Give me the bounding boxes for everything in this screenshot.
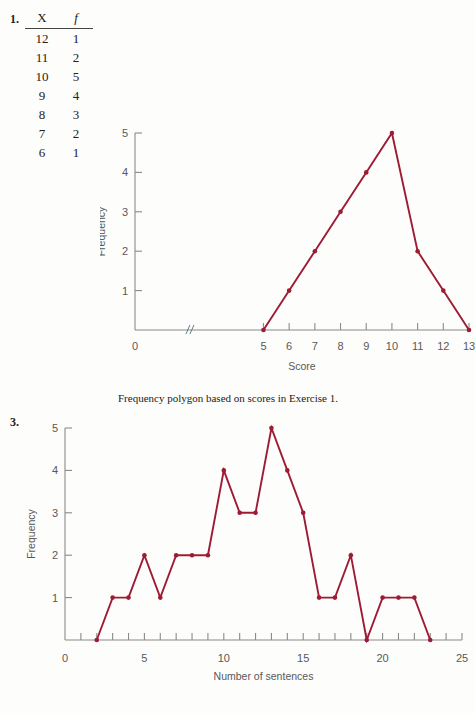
x-tick-label: 25 — [456, 652, 468, 664]
x-tick-label: 9 — [363, 340, 369, 352]
data-point-marker — [285, 468, 290, 473]
x-axis-title: Score — [288, 360, 316, 372]
cell-x: 6 — [25, 143, 59, 162]
y-tick-label: 5 — [122, 127, 128, 139]
data-point-marker — [317, 595, 322, 600]
cell-f: 1 — [59, 29, 93, 49]
x-tick-label: 15 — [297, 652, 309, 664]
data-point-marker — [396, 595, 401, 600]
data-point-marker — [412, 595, 417, 600]
x-tick-label: 10 — [218, 652, 230, 664]
data-point-marker — [313, 249, 318, 254]
cell-x: 11 — [25, 48, 59, 67]
series-line — [97, 428, 430, 640]
data-point-marker — [222, 468, 227, 473]
x-tick-label: 0 — [62, 652, 68, 664]
data-point-marker — [237, 511, 242, 516]
exercise-3-number: 3. — [10, 415, 19, 430]
table-body: 12 1 11 2 10 5 9 4 8 3 — [25, 29, 93, 163]
data-point-marker — [94, 638, 99, 643]
data-point-marker — [338, 210, 343, 215]
data-point-marker — [467, 328, 472, 333]
data-point-marker — [269, 426, 274, 431]
cell-x: 7 — [25, 124, 59, 143]
data-point-marker — [110, 595, 115, 600]
x-origin-label: 0 — [132, 340, 138, 352]
exercise-1-number: 1. — [10, 12, 19, 27]
data-point-marker — [287, 288, 292, 293]
cell-x: 8 — [25, 105, 59, 124]
x-tick-label: 5 — [260, 340, 266, 352]
column-header-f: f — [59, 10, 93, 29]
data-point-marker — [441, 288, 446, 293]
data-point-marker — [390, 131, 395, 136]
chart-3-svg: 12345Frequency0510152025Number of senten… — [20, 420, 470, 710]
data-point-marker — [190, 553, 195, 558]
y-axis-title: Frequency — [25, 508, 37, 558]
x-tick-label: 20 — [376, 652, 388, 664]
cell-f: 1 — [59, 143, 93, 162]
y-tick-label: 2 — [122, 245, 128, 257]
data-point-marker — [253, 511, 258, 516]
frequency-polygon-chart-1: 12345Frequency56789101112130Score — [100, 125, 475, 390]
x-tick-label: 10 — [386, 340, 398, 352]
chart-1-svg: 12345Frequency56789101112130Score — [100, 125, 475, 390]
x-tick-label: 12 — [437, 340, 449, 352]
cell-f: 4 — [59, 86, 93, 105]
x-tick-label: 7 — [312, 340, 318, 352]
cell-f: 2 — [59, 48, 93, 67]
y-tick-label: 4 — [122, 166, 128, 178]
y-tick-label: 4 — [52, 464, 58, 476]
y-axis-title: Frequency — [100, 206, 107, 256]
cell-f: 5 — [59, 67, 93, 86]
data-point-marker — [333, 595, 338, 600]
table-row: 6 1 — [25, 143, 93, 162]
data-point-marker — [364, 638, 369, 643]
x-tick-label: 11 — [412, 340, 423, 352]
x-axis-title: Number of sentences — [214, 670, 314, 682]
data-point-marker — [380, 595, 385, 600]
table-row: 7 2 — [25, 124, 93, 143]
x-tick-label: 13 — [463, 340, 475, 352]
data-point-marker — [415, 249, 420, 254]
y-tick-label: 3 — [52, 507, 58, 519]
frequency-polygon-chart-3: 12345Frequency0510152025Number of senten… — [20, 420, 470, 710]
y-tick-label: 2 — [52, 549, 58, 561]
table-row: 10 5 — [25, 67, 93, 86]
frequency-table: X f 12 1 11 2 10 5 9 4 — [25, 10, 93, 162]
cell-f: 2 — [59, 124, 93, 143]
cell-x: 9 — [25, 86, 59, 105]
y-tick-label: 5 — [52, 422, 58, 434]
table-header-row: X f — [25, 10, 93, 29]
data-point-marker — [428, 638, 433, 643]
x-tick-label: 5 — [141, 652, 147, 664]
data-point-marker — [142, 553, 147, 558]
cell-x: 12 — [25, 29, 59, 49]
x-tick-label: 8 — [337, 340, 343, 352]
data-point-marker — [174, 553, 179, 558]
table-row: 8 3 — [25, 105, 93, 124]
data-point-marker — [206, 553, 211, 558]
table-row: 11 2 — [25, 48, 93, 67]
table-row: 12 1 — [25, 29, 93, 49]
data-point-marker — [158, 595, 163, 600]
data-point-marker — [364, 170, 369, 175]
y-tick-label: 1 — [52, 592, 58, 604]
data-point-marker — [261, 328, 266, 333]
figure-caption-1: Frequency polygon based on scores in Exe… — [118, 392, 338, 404]
page-root: 1. X f 12 1 11 2 10 5 — [0, 0, 475, 713]
data-point-marker — [301, 511, 306, 516]
y-tick-label: 3 — [122, 206, 128, 218]
table-row: 9 4 — [25, 86, 93, 105]
y-tick-label: 1 — [122, 285, 128, 297]
cell-f: 3 — [59, 105, 93, 124]
x-tick-label: 6 — [286, 340, 292, 352]
cell-x: 10 — [25, 67, 59, 86]
series-line — [263, 133, 469, 330]
data-point-marker — [349, 553, 354, 558]
column-header-x: X — [25, 10, 59, 29]
data-point-marker — [126, 595, 131, 600]
